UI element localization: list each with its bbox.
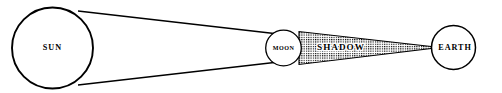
lower-light-ray (78, 60, 296, 85)
moon-label: MOON (273, 45, 295, 51)
upper-light-ray (78, 11, 296, 36)
sun-label: SUN (43, 43, 63, 52)
shadow-label: SHADOW (317, 42, 365, 52)
eclipse-diagram: SUN MOON SHADOW EARTH (0, 0, 502, 93)
eclipse-diagram-canvas: SUN MOON SHADOW EARTH (0, 0, 502, 93)
earth-label: EARTH (438, 43, 471, 52)
